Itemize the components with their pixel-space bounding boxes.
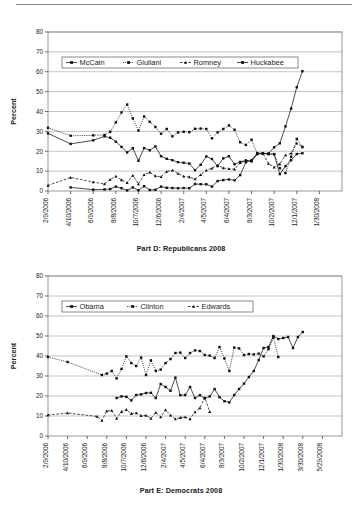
series-marker-clinton — [243, 354, 245, 356]
series-marker-giuliani — [69, 135, 71, 137]
republicans-chart-svg: 010203040506070802/9/20064/10/20066/9/20… — [0, 16, 362, 260]
series-marker-mccain — [205, 155, 207, 157]
legend-label-clinton: Clinton — [141, 302, 164, 311]
series-marker-edwards — [125, 408, 128, 411]
series-marker-giuliani — [205, 128, 207, 130]
series-marker-mccain — [69, 143, 71, 145]
series-marker-obama — [233, 394, 235, 396]
series-marker-obama — [248, 376, 250, 378]
series-marker-huckabee — [154, 189, 156, 191]
x-tick-label: 12/1/2007 — [291, 198, 298, 227]
series-marker-clinton — [218, 346, 220, 348]
series-marker-romney — [177, 172, 180, 175]
series-marker-giuliani — [239, 141, 241, 143]
series-marker-clinton — [135, 365, 137, 367]
series-marker-edwards — [208, 410, 211, 413]
y-tick-label: 50 — [36, 88, 44, 95]
series-marker-giuliani — [126, 103, 128, 105]
y-tick-label: 60 — [36, 312, 44, 319]
series-marker-huckabee — [222, 179, 224, 181]
series-marker-huckabee — [267, 152, 269, 154]
series-marker-huckabee — [120, 187, 122, 189]
series-marker-mccain — [160, 155, 162, 157]
legend-marker-huckabee — [241, 61, 244, 64]
series-marker-giuliani — [92, 134, 94, 136]
series-marker-clinton — [174, 352, 176, 354]
series-marker-huckabee — [171, 187, 173, 189]
x-tick-label: 8/8/2006 — [110, 198, 117, 223]
series-marker-obama — [130, 399, 132, 401]
series-marker-huckabee — [166, 187, 168, 189]
democrats-chart-svg: 010203040506070802/9/20064/10/20066/9/20… — [0, 256, 362, 506]
x-tick-label: 12/1/2007 — [258, 443, 265, 472]
series-marker-giuliani — [245, 144, 247, 146]
series-marker-giuliani — [171, 135, 173, 137]
series-marker-clinton — [47, 356, 49, 358]
series-marker-giuliani — [137, 129, 139, 131]
series-marker-mccain — [211, 158, 213, 160]
series-marker-mccain — [143, 147, 145, 149]
series-marker-huckabee — [296, 153, 298, 155]
series-marker-obama — [155, 397, 157, 399]
y-tick-label: 70 — [36, 292, 44, 299]
series-marker-clinton — [267, 348, 269, 350]
series-marker-clinton — [204, 354, 206, 356]
series-marker-clinton — [150, 359, 152, 361]
x-tick-label: 6/9/2006 — [81, 443, 88, 468]
series-marker-giuliani — [188, 131, 190, 133]
series-marker-mccain — [284, 125, 286, 127]
chart-republicans-2008: 010203040506070802/9/20064/10/20066/9/20… — [0, 16, 362, 260]
legend-label-giuliani: Giuliani — [137, 58, 162, 67]
series-marker-giuliani — [228, 124, 230, 126]
series-marker-huckabee — [160, 185, 162, 187]
x-tick-label: 8/3/2007 — [246, 198, 253, 223]
series-marker-huckabee — [137, 189, 139, 191]
x-tick-label: 12/6/2006 — [140, 443, 147, 472]
series-marker-huckabee — [211, 185, 213, 187]
series-marker-giuliani — [284, 172, 286, 174]
series-marker-clinton — [120, 368, 122, 370]
series-marker-giuliani — [115, 121, 117, 123]
series-marker-huckabee — [250, 159, 252, 161]
y-tick-label: 20 — [36, 392, 44, 399]
y-tick-label: 0 — [39, 187, 43, 194]
series-marker-huckabee — [245, 161, 247, 163]
series-marker-clinton — [189, 352, 191, 354]
x-tick-label: 4/10/2006 — [62, 443, 69, 472]
y-tick-label: 50 — [36, 332, 44, 339]
series-marker-obama — [262, 347, 264, 349]
series-marker-clinton — [66, 361, 68, 363]
series-marker-clinton — [101, 374, 103, 376]
series-marker-obama — [258, 359, 260, 361]
legend-label-romney: Romney — [194, 58, 222, 67]
series-marker-mccain — [92, 139, 94, 141]
series-marker-giuliani — [160, 133, 162, 135]
series-marker-clinton — [272, 336, 274, 338]
series-marker-obama — [228, 401, 230, 403]
series-marker-clinton — [213, 357, 215, 359]
series-marker-giuliani — [216, 131, 218, 133]
series-marker-clinton — [179, 351, 181, 353]
series-marker-edwards — [198, 407, 201, 410]
series-marker-clinton — [106, 372, 108, 374]
y-tick-label: 30 — [36, 372, 44, 379]
page-top-rule — [16, 4, 352, 5]
series-marker-huckabee — [143, 185, 145, 187]
series-marker-mccain — [188, 162, 190, 164]
series-marker-huckabee — [273, 153, 275, 155]
series-marker-giuliani — [132, 117, 134, 119]
y-tick-label: 80 — [36, 28, 44, 35]
series-marker-clinton — [111, 370, 113, 372]
series-marker-obama — [277, 338, 279, 340]
series-marker-obama — [120, 395, 122, 397]
series-marker-giuliani — [47, 127, 49, 129]
series-marker-obama — [164, 386, 166, 388]
y-tick-label: 70 — [36, 48, 44, 55]
series-marker-obama — [174, 376, 176, 378]
y-tick-label: 40 — [36, 108, 44, 115]
x-tick-label: 6/9/2006 — [87, 198, 94, 223]
series-marker-huckabee — [233, 179, 235, 181]
series-marker-mccain — [182, 162, 184, 164]
series-marker-romney — [109, 178, 112, 181]
x-tick-label: 8/3/2007 — [218, 443, 225, 468]
